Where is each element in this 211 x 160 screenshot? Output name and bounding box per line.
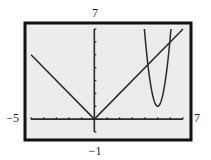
xmin-label: −5 xyxy=(6,111,19,125)
calculator-graph: 7 −1 −5 7 xyxy=(0,0,211,160)
xmax-label: 7 xyxy=(194,111,200,125)
screen-frame xyxy=(25,23,191,140)
ymin-label: −1 xyxy=(89,144,102,158)
ymax-label: 7 xyxy=(92,6,98,20)
